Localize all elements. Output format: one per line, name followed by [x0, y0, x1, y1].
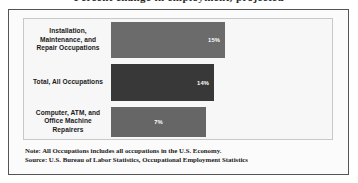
bar-value-label: 7% — [154, 119, 163, 125]
bar-category-label-total-all-occupations: Total, All Occupations — [25, 63, 111, 101]
bar-installation-maintenance-repair[interactable]: 15% — [111, 22, 225, 58]
chart-footnotes: Note: All Occupations includes all occup… — [25, 146, 337, 165]
category-label-line: Installation, — [36, 27, 99, 36]
bar-computer-atm-office-machine-repairers[interactable]: 7% — [111, 107, 206, 137]
figure-frame: Installation, Maintenance, and Repair Oc… — [8, 9, 349, 175]
bar-value-label: 15% — [208, 37, 220, 43]
bar-total-all-occupations[interactable]: 14% — [111, 64, 214, 101]
category-label-line: Maintenance, and — [36, 36, 99, 45]
footnote-source: Source: U.S. Bureau of Labor Statistics,… — [25, 155, 337, 164]
category-label-line: Computer, ATM, and — [36, 109, 100, 118]
figure-title: Percent change in employment, projected — [74, 0, 284, 3]
bar-chart: Installation, Maintenance, and Repair Oc… — [23, 18, 333, 140]
category-label-line: Total, All Occupations — [33, 78, 103, 87]
footnote-note: Note: All Occupations includes all occup… — [25, 146, 337, 155]
category-label-line: Repair Occupations — [36, 44, 99, 53]
category-label-line: Office Machine — [36, 117, 100, 126]
category-label-line: Repairers — [36, 126, 100, 135]
bar-value-label: 14% — [197, 80, 209, 86]
bar-category-label-installation-maintenance-repair: Installation, Maintenance, and Repair Oc… — [25, 21, 111, 59]
bar-category-label-computer-atm-office-machine-repairers: Computer, ATM, and Office Machine Repair… — [25, 105, 111, 138]
figure-title-strip: Percent change in employment, projected — [0, 0, 358, 9]
